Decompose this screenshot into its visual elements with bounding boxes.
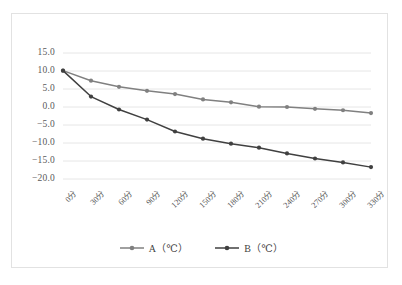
data-point [173, 129, 177, 133]
legend-marker-icon [119, 243, 145, 253]
data-point [341, 160, 345, 164]
chart-container: 15.010.05.00.0−5.0−10.0−15.0−20.0 0分30分6… [11, 13, 388, 268]
data-point [257, 146, 261, 150]
y-axis-tick-label: −10.0 [11, 137, 55, 147]
legend-label: B（℃） [244, 240, 283, 255]
data-point [145, 89, 149, 93]
y-axis-tick-label: 5.0 [11, 83, 55, 93]
data-point [369, 111, 373, 115]
y-axis-tick-label: 0.0 [11, 101, 55, 111]
data-point [229, 142, 233, 146]
data-point [341, 108, 345, 112]
legend-marker-icon [214, 243, 240, 253]
data-point [369, 165, 373, 169]
data-point [117, 85, 121, 89]
data-point [89, 79, 93, 83]
y-axis-tick-label: −5.0 [11, 119, 55, 129]
data-point [201, 137, 205, 141]
legend-label: A（℃） [149, 240, 189, 255]
data-point [257, 105, 261, 109]
data-point [173, 92, 177, 96]
data-point [285, 105, 289, 109]
data-point [285, 151, 289, 155]
data-point [201, 97, 205, 101]
y-axis-tick-label: 15.0 [11, 47, 55, 57]
legend-item-a[interactable]: A（℃） [119, 240, 189, 255]
data-point [117, 107, 121, 111]
data-point [313, 107, 317, 111]
data-point [89, 94, 93, 98]
chart-plot-area [12, 14, 389, 269]
data-point [313, 156, 317, 160]
y-axis-tick-label: −20.0 [11, 173, 55, 183]
y-axis-tick-label: 10.0 [11, 65, 55, 75]
data-point [229, 100, 233, 104]
y-axis-tick-label: −15.0 [11, 155, 55, 165]
legend-item-b[interactable]: B（℃） [214, 240, 283, 255]
chart-legend: A（℃）B（℃） [0, 240, 402, 255]
data-point [61, 69, 65, 73]
data-point [145, 118, 149, 122]
